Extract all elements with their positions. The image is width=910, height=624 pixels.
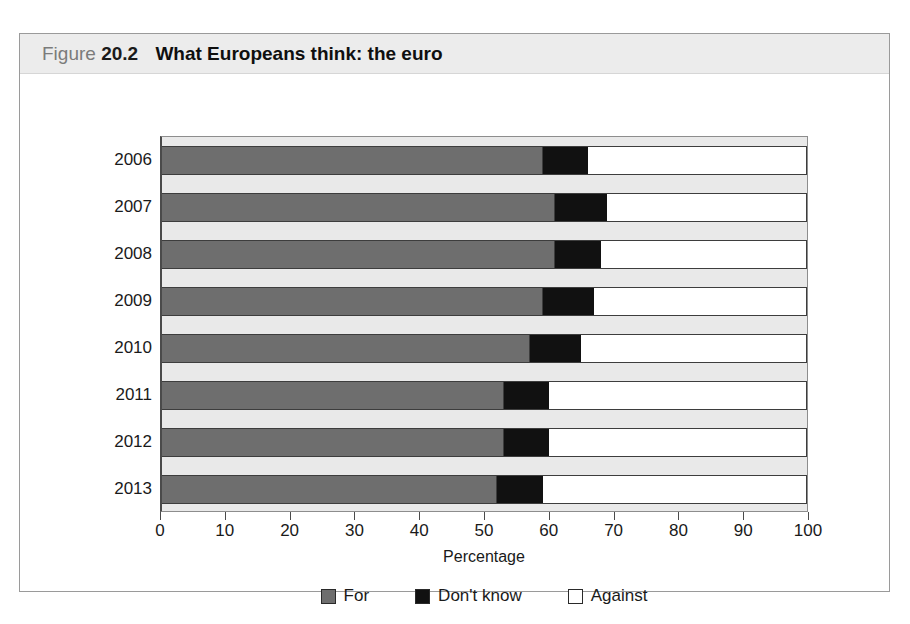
chart-area: 20062007200820092010201120122013 0102030…: [20, 74, 889, 591]
bar-segment-don-t-know: [543, 287, 595, 316]
bar-segment-for: [162, 334, 530, 363]
bar-segment-against: [581, 334, 807, 363]
bar-segment-don-t-know: [555, 193, 607, 222]
bar-segment-against: [549, 381, 807, 410]
bar-segment-don-t-know: [504, 381, 549, 410]
x-axis-tick-label-60: 60: [524, 521, 574, 541]
bar-segment-against: [601, 240, 807, 269]
bar-segment-don-t-know: [530, 334, 582, 363]
bar-row: [162, 381, 807, 410]
bar-segment-for: [162, 146, 543, 175]
legend-item[interactable]: For: [321, 586, 370, 606]
x-axis-tick-label-20: 20: [265, 521, 315, 541]
x-axis-tick-label-80: 80: [653, 521, 703, 541]
legend-label: For: [344, 586, 370, 606]
x-axis-tick-label-10: 10: [200, 521, 250, 541]
x-axis-tick-label-90: 90: [718, 521, 768, 541]
bar-row: [162, 428, 807, 457]
x-axis-tick: [549, 512, 550, 520]
bar-row: [162, 475, 807, 504]
bar-row: [162, 146, 807, 175]
x-axis-tick: [808, 512, 809, 520]
figure-title: What Europeans think: the euro: [155, 43, 442, 64]
legend-swatch-icon: [415, 589, 430, 604]
x-axis-tick-label-70: 70: [589, 521, 639, 541]
plot-area: [160, 136, 808, 512]
x-axis-tick: [419, 512, 420, 520]
y-axis-label-2007: 2007: [32, 197, 152, 217]
x-axis: 0102030405060708090100: [160, 512, 808, 552]
bar-segment-for: [162, 193, 555, 222]
legend-swatch-icon: [568, 589, 583, 604]
y-axis-label-2008: 2008: [32, 244, 152, 264]
x-axis-tick: [290, 512, 291, 520]
bar-segment-for: [162, 381, 504, 410]
figure-number: 20.2: [101, 43, 138, 64]
x-axis-tick: [484, 512, 485, 520]
bar-row: [162, 193, 807, 222]
y-axis-label-2011: 2011: [32, 385, 152, 405]
bar-segment-don-t-know: [555, 240, 600, 269]
bar-segment-against: [588, 146, 807, 175]
figure-caption: Figure 20.2 What Europeans think: the eu…: [42, 43, 443, 65]
legend-label: Against: [591, 586, 648, 606]
bar-segment-for: [162, 475, 497, 504]
bar-segment-against: [549, 428, 807, 457]
figure-header-band: Figure 20.2 What Europeans think: the eu…: [20, 34, 889, 74]
bar-row: [162, 334, 807, 363]
bar-row: [162, 287, 807, 316]
legend-item[interactable]: Against: [568, 586, 648, 606]
legend-swatch-icon: [321, 589, 336, 604]
x-axis-tick-label-100: 100: [783, 521, 833, 541]
y-axis-label-2006: 2006: [32, 150, 152, 170]
chart-legend: ForDon't knowAgainst: [160, 586, 808, 606]
x-axis-tick: [354, 512, 355, 520]
y-axis-label-2013: 2013: [32, 479, 152, 499]
bar-segment-against: [607, 193, 807, 222]
bar-segment-for: [162, 287, 543, 316]
x-axis-title: Percentage: [160, 548, 808, 566]
bar-segment-for: [162, 428, 504, 457]
x-axis-tick-label-50: 50: [459, 521, 509, 541]
figure-label: Figure: [42, 43, 96, 64]
bar-segment-against: [543, 475, 807, 504]
x-axis-tick: [225, 512, 226, 520]
x-axis-tick: [743, 512, 744, 520]
bar-row: [162, 240, 807, 269]
y-axis-label-2012: 2012: [32, 432, 152, 452]
legend-item[interactable]: Don't know: [415, 586, 522, 606]
bar-segment-against: [594, 287, 807, 316]
figure-container: Figure 20.2 What Europeans think: the eu…: [19, 33, 890, 592]
x-axis-tick: [678, 512, 679, 520]
x-axis-tick-label-30: 30: [329, 521, 379, 541]
bar-segment-don-t-know: [504, 428, 549, 457]
x-axis-tick: [614, 512, 615, 520]
bar-segment-don-t-know: [497, 475, 542, 504]
y-axis-label-2009: 2009: [32, 291, 152, 311]
y-axis-labels: 20062007200820092010201120122013: [30, 136, 152, 512]
x-axis-tick: [160, 512, 161, 520]
x-axis-tick-label-40: 40: [394, 521, 444, 541]
bar-segment-don-t-know: [543, 146, 588, 175]
x-axis-tick-label-0: 0: [135, 521, 185, 541]
bar-segment-for: [162, 240, 555, 269]
y-axis-label-2010: 2010: [32, 338, 152, 358]
legend-label: Don't know: [438, 586, 522, 606]
